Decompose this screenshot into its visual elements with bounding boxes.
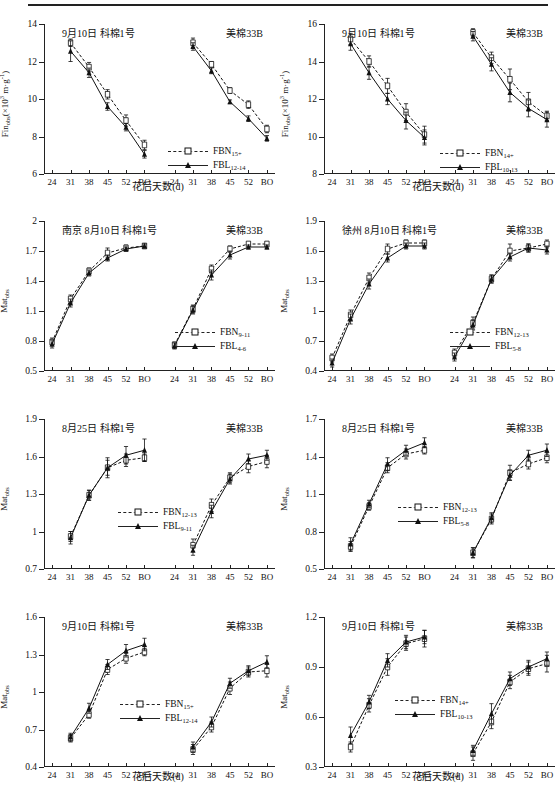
y-tick-label: 1.3 <box>305 276 317 286</box>
data-point <box>544 447 549 453</box>
data-point <box>385 246 389 252</box>
legend-solid-key-icon <box>118 521 158 531</box>
legend-item: FBN14+ <box>440 146 518 160</box>
data-point <box>227 680 232 686</box>
x-axis-caption: 花后天数(d) <box>324 178 552 193</box>
y-tick-label: 0.5 <box>25 366 37 376</box>
y-tick-label: 1.6 <box>305 246 317 256</box>
legend-solid-key-icon <box>175 341 215 351</box>
y-tick <box>319 569 324 570</box>
data-point <box>507 676 512 682</box>
series-fbn-sub0 <box>50 243 147 346</box>
y-tick-label: 0.7 <box>25 564 37 574</box>
series-layer <box>44 419 275 569</box>
series-fbn-sub1 <box>191 38 269 133</box>
y-tick-label: 14 <box>308 57 318 67</box>
series-fbl-sub1 <box>190 450 269 555</box>
y-tick <box>39 174 44 175</box>
legend-item: FBL10-13 <box>395 707 473 721</box>
series-fbn-sub1 <box>471 453 549 558</box>
series-fbl-sub0 <box>330 243 427 367</box>
y-axis-label: Matobs <box>279 487 290 511</box>
data-point <box>209 61 213 67</box>
y-tick-label: 1 <box>32 687 37 697</box>
x-axis-caption: 花后天数(d) <box>44 178 272 193</box>
data-point <box>526 461 530 467</box>
y-axis-label: Matobs <box>0 685 10 709</box>
legend-p1: FBN15+FBL12-14 <box>168 144 246 172</box>
data-point <box>68 48 73 54</box>
legend-dashed-key-icon <box>440 148 480 158</box>
data-point <box>385 255 390 261</box>
y-tick-label: 1.3 <box>25 650 37 660</box>
series-fbn-sub0 <box>348 630 426 752</box>
legend-label: FBL5-8 <box>495 341 521 352</box>
legend-item: FBN9-11 <box>175 325 250 339</box>
y-tick-label: 1 <box>312 306 317 316</box>
series-fbl-sub0 <box>68 638 147 741</box>
y-tick-label: 1.3 <box>25 489 37 499</box>
legend-dashed-key-icon <box>175 327 215 337</box>
chart-panel-p3: 南京 8月10日 科棉1号美棉33BMatobs0.50.81.11.41.72… <box>0 205 279 405</box>
legend-dashed-key-icon <box>118 507 158 517</box>
series-fbl-sub1 <box>470 444 549 558</box>
legend-item: FBN12-13 <box>398 500 477 514</box>
y-tick-label: 0.7 <box>25 725 37 735</box>
legend-item: FBL5-8 <box>450 339 529 353</box>
y-tick-label: 12 <box>28 57 38 67</box>
legend-label: FBN14+ <box>440 695 469 706</box>
y-tick-label: 1.4 <box>305 452 317 462</box>
y-tick-label: 0.5 <box>305 564 317 574</box>
y-tick-label: 1 <box>32 527 37 537</box>
legend-dashed-key-icon <box>120 699 160 709</box>
legend-item: FBL10-13 <box>440 160 518 174</box>
legend-item: FBL5-8 <box>398 514 477 528</box>
series-fbn-sub0 <box>348 33 426 143</box>
legend-solid-key-icon <box>440 162 480 172</box>
legend-label: FBN15+ <box>165 699 194 710</box>
y-tick-label: 1.9 <box>25 414 37 424</box>
legend-item: FBN12-13 <box>118 505 197 519</box>
y-tick-label: 1.1 <box>305 489 317 499</box>
y-tick-label: 12 <box>308 94 318 104</box>
legend-label: FBL9-11 <box>163 521 192 532</box>
y-tick-label: 1.4 <box>25 276 37 286</box>
legend-solid-key-icon <box>398 516 438 526</box>
legend-p3: FBN9-11FBL4-6 <box>175 325 250 353</box>
legend-dashed-key-icon <box>398 502 438 512</box>
legend-label: FBL12-14 <box>213 160 246 171</box>
y-tick-label: 0.8 <box>25 336 37 346</box>
y-tick-label: 0.4 <box>25 762 37 772</box>
y-axis-label: Finobs(×103 m·g-1) <box>0 71 11 138</box>
y-tick-label: 1.9 <box>305 216 317 226</box>
y-tick-label: 0.4 <box>305 366 317 376</box>
y-tick-label: 14 <box>28 19 38 29</box>
series-layer <box>324 419 555 569</box>
y-tick <box>319 371 324 372</box>
y-tick <box>39 371 44 372</box>
legend-item: FBN15+ <box>120 697 198 711</box>
legend-label: FBN15+ <box>213 146 242 157</box>
data-point <box>507 254 512 260</box>
legend-item: FBL4-6 <box>175 339 250 353</box>
y-tick-label: 10 <box>308 132 318 142</box>
legend-p5: FBN12-13FBL9-11 <box>118 505 197 533</box>
legend-solid-key-icon <box>120 713 160 723</box>
y-axis-label: Matobs <box>0 289 10 313</box>
series-layer <box>44 617 275 767</box>
plot-area: 0.30.60.91.22431384552BO2431384552BO <box>324 617 555 767</box>
data-point <box>544 656 549 662</box>
legend-dashed-key-icon <box>395 695 435 705</box>
y-tick-label: 1.7 <box>305 414 317 424</box>
data-point <box>265 126 269 132</box>
plot-area: 0.711.31.61.92431384552BO2431384552BO <box>44 419 275 569</box>
legend-p6: FBN12-13FBL5-8 <box>398 500 477 528</box>
y-tick-label: 1.2 <box>305 612 317 622</box>
legend-label: FBN12-13 <box>443 502 477 513</box>
legend-label: FBN12-13 <box>495 327 529 338</box>
data-point <box>142 641 147 647</box>
series-fbl-sub0 <box>348 438 427 551</box>
data-point <box>142 142 146 148</box>
legend-item: FBN14+ <box>395 693 473 707</box>
x-axis-caption: 花后天数(d) <box>44 768 272 783</box>
